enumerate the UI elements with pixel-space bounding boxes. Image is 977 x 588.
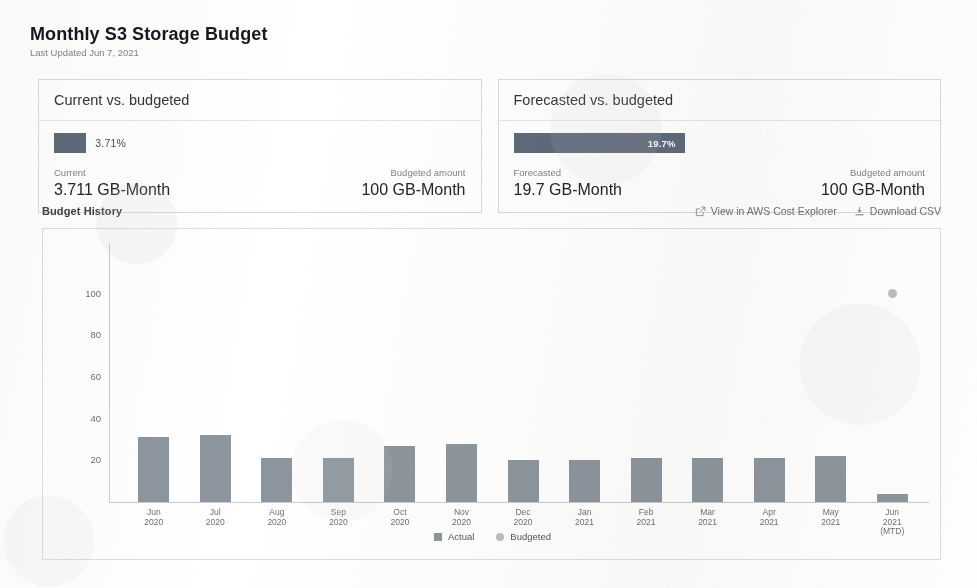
x-axis-tick-label: Feb2021 (616, 508, 676, 527)
current-label: Current (54, 167, 170, 178)
legend-item-actual[interactable]: Actual (434, 531, 474, 542)
legend-swatch-circle-icon (496, 533, 504, 541)
card-body: 3.71% Current 3.711 GB-Month Budgeted am… (39, 121, 481, 212)
card-footer-left: Current 3.711 GB-Month (54, 167, 170, 199)
page-root: Monthly S3 Storage Budget Last Updated J… (0, 0, 977, 588)
progress-bar-forecasted: 19.7% (514, 133, 926, 153)
chart-legend: Actual Budgeted (43, 531, 942, 542)
progress-percent-label: 3.71% (95, 137, 126, 149)
card-footer-right: Budgeted amount 100 GB-Month (361, 167, 465, 199)
x-axis-tick-label: Jan2021 (555, 508, 615, 527)
current-value: 3.711 GB-Month (54, 180, 170, 199)
card-footer: Current 3.711 GB-Month Budgeted amount 1… (54, 167, 466, 199)
external-link-icon (695, 206, 706, 217)
budgeted-amount-value: 100 GB-Month (821, 180, 925, 199)
chart-bar[interactable] (384, 446, 415, 502)
budgeted-amount-value: 100 GB-Month (361, 180, 465, 199)
x-axis-tick-label: Aug2020 (247, 508, 307, 527)
chart-bar[interactable] (877, 494, 908, 502)
x-axis-tick-label: Sep2020 (308, 508, 368, 527)
chart-bar[interactable] (261, 458, 292, 502)
card-footer-right: Budgeted amount 100 GB-Month (821, 167, 925, 199)
card-body: 19.7% Forecasted 19.7 GB-Month Budgeted … (499, 121, 941, 212)
last-updated-text: Last Updated Jun 7, 2021 (30, 47, 268, 58)
chart-bar[interactable] (508, 460, 539, 502)
card-title: Forecasted vs. budgeted (499, 80, 941, 121)
budgeted-amount-label: Budgeted amount (361, 167, 465, 178)
chart-bar[interactable] (815, 456, 846, 502)
card-current-vs-budgeted: Current vs. budgeted 3.71% Current 3.711… (38, 79, 482, 213)
page-header: Monthly S3 Storage Budget Last Updated J… (30, 24, 268, 58)
chart-bar[interactable] (692, 458, 723, 502)
progress-percent-label: 19.7% (648, 138, 676, 149)
x-axis-tick-label: Jun2020 (124, 508, 184, 527)
x-axis-tick-label: Dec2020 (493, 508, 553, 527)
x-axis-tick-label: Nov2020 (431, 508, 491, 527)
y-axis-tick: 100 (67, 289, 101, 299)
forecasted-value: 19.7 GB-Month (514, 180, 623, 199)
download-csv-label: Download CSV (870, 205, 941, 217)
y-axis-tick: 40 (67, 414, 101, 424)
progress-fill: 19.7% (514, 133, 685, 153)
view-in-cost-explorer-label: View in AWS Cost Explorer (711, 205, 837, 217)
progress-fill (54, 133, 86, 153)
view-in-cost-explorer-link[interactable]: View in AWS Cost Explorer (695, 205, 837, 217)
card-title: Current vs. budgeted (39, 80, 481, 121)
x-axis-tick-label: May2021 (801, 508, 861, 527)
download-icon (854, 206, 865, 217)
chart-bar[interactable] (569, 460, 600, 502)
forecasted-label: Forecasted (514, 167, 623, 178)
y-axis-tick: 20 (67, 455, 101, 465)
y-axis-tick: 80 (67, 330, 101, 340)
budget-history-actions: View in AWS Cost Explorer Download CSV (695, 205, 941, 217)
chart-bar[interactable] (631, 458, 662, 502)
chart-bar[interactable] (138, 437, 169, 502)
legend-label: Actual (448, 531, 474, 542)
summary-cards: Current vs. budgeted 3.71% Current 3.711… (38, 79, 941, 213)
x-axis-tick-label: Oct2020 (370, 508, 430, 527)
x-axis-tick-label: Mar2021 (678, 508, 738, 527)
legend-label: Budgeted (510, 531, 551, 542)
chart-bar[interactable] (323, 458, 354, 502)
budgeted-amount-label: Budgeted amount (821, 167, 925, 178)
x-axis-tick-label: Apr2021 (739, 508, 799, 527)
budget-history-header: Budget History View in AWS Cost Explorer (42, 205, 941, 217)
card-footer: Forecasted 19.7 GB-Month Budgeted amount… (514, 167, 926, 199)
x-axis-line (109, 502, 929, 503)
legend-swatch-square-icon (434, 533, 442, 541)
budget-history-title: Budget History (42, 205, 122, 217)
y-axis-line (109, 243, 110, 502)
download-csv-link[interactable]: Download CSV (854, 205, 941, 217)
budget-history-chart: 10080604020Jun2020Jul2020Aug2020Sep2020O… (42, 228, 941, 560)
card-forecasted-vs-budgeted: Forecasted vs. budgeted 19.7% Forecasted… (498, 79, 942, 213)
chart-plot-area: 10080604020Jun2020Jul2020Aug2020Sep2020O… (43, 229, 942, 561)
x-axis-tick-label: Jul2020 (185, 508, 245, 527)
y-axis-tick: 60 (67, 372, 101, 382)
chart-bar[interactable] (754, 458, 785, 502)
chart-budget-dot[interactable] (888, 289, 897, 298)
card-footer-left: Forecasted 19.7 GB-Month (514, 167, 623, 199)
chart-bar[interactable] (200, 435, 231, 502)
progress-bar-current: 3.71% (54, 133, 466, 153)
page-title: Monthly S3 Storage Budget (30, 24, 268, 44)
chart-bar[interactable] (446, 444, 477, 502)
legend-item-budgeted[interactable]: Budgeted (496, 531, 551, 542)
